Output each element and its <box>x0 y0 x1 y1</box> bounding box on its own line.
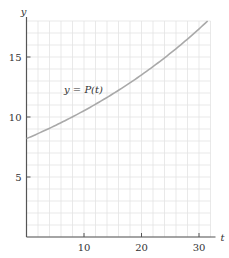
curve-p-of-t <box>27 21 208 139</box>
x-tick-label: 20 <box>135 242 148 253</box>
x-tick-label: 10 <box>78 242 91 253</box>
grid-lines <box>27 21 211 237</box>
y-tick-label: 5 <box>15 172 21 183</box>
curve-label: y = P(t) <box>63 84 103 95</box>
x-tick-label: 30 <box>193 242 206 253</box>
chart: 10203051015 t y y = P(t) <box>0 0 229 258</box>
y-tick-label: 15 <box>9 52 22 63</box>
y-tick-label: 10 <box>9 112 22 123</box>
x-axis-label: t <box>221 232 226 243</box>
y-axis-label: y <box>20 6 27 17</box>
